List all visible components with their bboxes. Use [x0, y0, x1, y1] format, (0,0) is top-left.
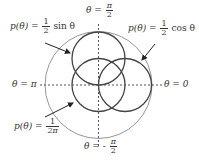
uniform-label: p(θ) = 1 2π — [14, 118, 60, 135]
fraction: π 2 — [110, 138, 117, 155]
fraction: 1 2 — [42, 18, 49, 35]
denominator: 2 — [110, 147, 117, 155]
axis-label-top: θ = π 2 — [86, 2, 114, 19]
fraction: 1 2 — [160, 20, 167, 37]
label-rhs: sin θ — [53, 21, 75, 31]
axis-label-bottom: θ = - π 2 — [84, 138, 118, 155]
axis-label-left: θ = π — [12, 80, 37, 89]
denominator: 2 — [42, 27, 49, 35]
label-lhs: p(θ) = — [14, 121, 43, 131]
denominator: 2 — [160, 29, 167, 37]
sin-label: p(θ) = 1 2 sin θ — [10, 18, 75, 35]
sin-arrow — [45, 43, 70, 53]
cos-arrow — [142, 44, 155, 60]
label-lhs: p(θ) = — [128, 23, 157, 33]
axis-label-right: θ = 0 — [164, 80, 188, 89]
fraction: π 2 — [106, 2, 113, 19]
label-lhs: p(θ) = — [10, 21, 39, 31]
denominator: 2 — [106, 11, 113, 19]
denominator: 2π — [46, 127, 58, 135]
fraction: 1 2π — [46, 118, 58, 135]
equals-sign: = - — [92, 141, 105, 151]
theta-symbol: θ — [84, 141, 89, 151]
cos-label: p(θ) = 1 2 cos θ — [128, 20, 195, 37]
label-rhs: cos θ — [171, 23, 194, 33]
theta-symbol: θ — [86, 5, 91, 15]
equals-sign: = — [94, 5, 102, 15]
polar-density-diagram: θ = π 2 θ = - π 2 θ = π θ = 0 p(θ) = 1 2… — [0, 0, 199, 162]
